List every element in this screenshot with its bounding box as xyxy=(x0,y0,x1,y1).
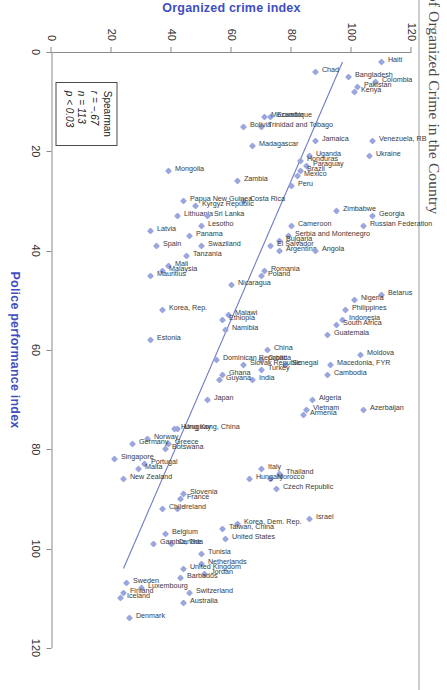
data-point-label: Algeria xyxy=(318,393,340,400)
data-point-label: Armenia xyxy=(309,408,336,415)
data-point-label: Tanzania xyxy=(192,249,221,256)
x-tick xyxy=(46,52,51,53)
data-point-label: Macedonia, FYR xyxy=(336,359,390,366)
data-point-label: Ethiopia xyxy=(228,314,254,321)
data-point-label: Panama xyxy=(195,230,222,237)
y-tick-label: 0 xyxy=(45,35,57,41)
stats-p: p < 0.03 xyxy=(61,91,74,137)
data-point-label: Ukraine xyxy=(375,150,400,157)
data-point-label: Peru xyxy=(297,180,312,187)
data-point-label: Russian Federation xyxy=(369,220,431,227)
data-point-label: Dominican Republic xyxy=(222,354,286,361)
data-point-label: Singapore xyxy=(120,453,153,460)
data-point-label: Costa Rica xyxy=(249,195,284,202)
data-point-label: Angola xyxy=(321,244,343,251)
x-axis-title: Police performance index xyxy=(7,272,21,429)
data-point-label: Ireland xyxy=(183,503,205,510)
data-point-label: Mauritius xyxy=(156,269,185,276)
data-point-label: Cambodia xyxy=(333,369,366,376)
data-point-label: Tunisia xyxy=(207,547,230,554)
data-point-label: Australia xyxy=(189,597,217,604)
data-point-label: Nicaragua xyxy=(237,279,270,286)
y-tick-label: 60 xyxy=(225,29,237,41)
data-point-label: Taiwan, China xyxy=(228,523,273,530)
data-point-label: South Africa xyxy=(342,319,381,326)
data-point-label: New Zealand xyxy=(129,473,171,480)
y-tick-label: 20 xyxy=(105,29,117,41)
y-tick-label: 80 xyxy=(285,29,297,41)
data-point-label: El Salvador xyxy=(276,239,313,246)
data-point-label: Mongolia xyxy=(174,165,203,172)
data-point-label: India xyxy=(258,374,274,381)
data-point-label: Georgia xyxy=(378,210,404,217)
data-point-label: Latvia xyxy=(156,225,175,232)
data-point-label: Namibia xyxy=(231,324,257,331)
figure: of Organized Crime in the Country 020406… xyxy=(0,0,447,690)
x-tick-label: 0 xyxy=(29,49,41,55)
data-point-label: Madagascar xyxy=(258,140,298,147)
x-tick xyxy=(46,151,51,152)
data-point-label: Kenya xyxy=(360,86,380,93)
rotated-figure-wrapper: of Organized Crime in the Country 020406… xyxy=(0,0,447,690)
y-tick-label: 100 xyxy=(345,23,357,41)
data-point-label: Sri Lanka xyxy=(213,210,243,217)
data-point-label: Switzerland xyxy=(195,587,232,594)
data-point-label: Belarus xyxy=(387,289,411,296)
data-point-label: Hungary xyxy=(255,473,282,480)
x-tick-label: 40 xyxy=(29,245,41,257)
stats-r: r = −.67 xyxy=(86,91,99,137)
data-point-label: Kyrgyz Republic xyxy=(201,200,253,207)
data-point-label: Japan xyxy=(213,393,233,400)
x-tick xyxy=(46,449,51,450)
data-point-label: Gambia, The xyxy=(159,537,200,544)
data-point-label: Lesotho xyxy=(207,220,233,227)
stats-n: n = 113 xyxy=(74,91,87,137)
data-point-label: Germany xyxy=(138,438,168,445)
x-tick-label: 100 xyxy=(29,539,41,557)
x-tick-label: 120 xyxy=(29,639,41,657)
x-tick xyxy=(46,549,51,550)
page-title: of Organized Crime in the Country xyxy=(424,0,442,690)
data-point-label: Honduras xyxy=(306,155,337,162)
data-point-label: Bangladesh xyxy=(354,71,392,78)
data-point-label: Hong Kong, China xyxy=(180,423,239,430)
x-tick xyxy=(46,251,51,252)
x-tick-label: 80 xyxy=(29,443,41,455)
data-point-label: Cameroon xyxy=(297,220,331,227)
data-point-label: Venezuela, RB xyxy=(378,135,426,142)
data-point-label: Guyana xyxy=(225,374,250,381)
y-tick-label: 120 xyxy=(405,23,417,41)
figure-root: of Organized Crime in the Country 020406… xyxy=(0,0,447,690)
data-point-label: Barbados xyxy=(186,572,217,579)
data-point-label: Azerbaijan xyxy=(369,403,403,410)
data-point-label: Poland xyxy=(267,269,289,276)
data-point-label: Belgium xyxy=(171,528,197,535)
x-tick-label: 60 xyxy=(29,344,41,356)
data-point-label: Sweden xyxy=(132,577,158,584)
data-point-label: Italy xyxy=(267,463,280,470)
data-point-label: Chad xyxy=(321,66,338,73)
data-point-label: Haiti xyxy=(387,56,401,63)
data-point-label: China xyxy=(273,344,292,351)
data-point-label: Chile xyxy=(168,503,184,510)
y-tick-label: 40 xyxy=(165,29,177,41)
plot-area: 020406080100120 020406080100120 HaitiCol… xyxy=(51,52,411,648)
data-point-label: Denmark xyxy=(135,612,164,619)
data-point-label: Philippines xyxy=(351,304,386,311)
data-point-label: Israel xyxy=(315,513,333,520)
stats-title: Spearman xyxy=(99,91,112,137)
data-point-label: Estonia xyxy=(156,334,180,341)
data-point-label: Mozambique xyxy=(270,110,311,117)
data-point-label: Mexico xyxy=(303,170,326,177)
y-axis-title: Organized crime index xyxy=(162,1,300,15)
data-point-label: Zambia xyxy=(243,175,267,182)
data-point-label: Swaziland xyxy=(207,239,240,246)
data-point-label: United States xyxy=(231,533,274,540)
x-tick-label: 20 xyxy=(29,145,41,157)
data-point-label: France xyxy=(186,493,208,500)
page-edge-rule xyxy=(418,0,419,690)
data-point-label: Spain xyxy=(162,239,180,246)
data-point-label: Guatemala xyxy=(333,329,368,336)
data-point-label: Malta xyxy=(144,463,162,470)
data-point-label: Trinidad and Tobago xyxy=(267,120,332,127)
